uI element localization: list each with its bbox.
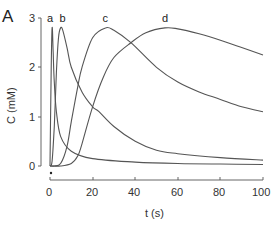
y-tick-label: 1 <box>29 111 35 123</box>
x-tick-label: 60 <box>171 186 183 198</box>
curve-label-a: a <box>47 12 54 24</box>
x-tick-label: 100 <box>252 186 270 198</box>
panel-label: A <box>2 7 14 26</box>
x-tick-label: 40 <box>128 186 140 198</box>
curves <box>50 27 263 166</box>
x-tick-label: 80 <box>213 186 225 198</box>
curve-label-b: b <box>60 12 66 24</box>
curve-label-d: d <box>162 12 168 24</box>
stimulus-marker <box>50 172 52 174</box>
y-tick-label: 2 <box>29 61 35 73</box>
x-axis-label: t (s) <box>145 207 164 219</box>
curve-d <box>50 28 263 167</box>
y-tick-label: 3 <box>29 12 35 24</box>
y-axis-label: C (mM) <box>5 87 17 124</box>
x-tick-label: 20 <box>86 186 98 198</box>
x-tick-label: 0 <box>46 186 52 198</box>
curve-label-c: c <box>102 12 108 24</box>
y-tick-label: 0 <box>29 160 35 172</box>
curve-labels: abcd <box>47 12 168 24</box>
x-axis: 0 20 40 60 80 100 t (s) <box>46 177 270 219</box>
y-axis: 3 2 1 0 C (mM) <box>5 12 41 172</box>
concentration-time-chart: A 3 2 1 0 C (mM) 0 20 40 60 80 100 t (s)… <box>0 0 278 227</box>
